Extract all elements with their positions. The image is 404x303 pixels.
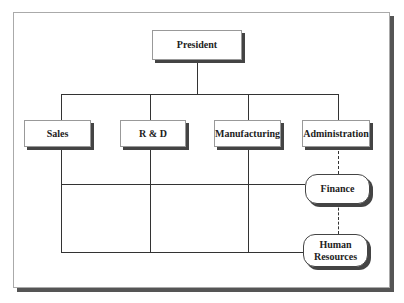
president-label: President bbox=[177, 39, 217, 51]
connector-hr-horizontal bbox=[61, 252, 303, 253]
dashed-admin-to-finance bbox=[338, 146, 339, 174]
box-president: President bbox=[152, 30, 242, 60]
box-finance: Finance bbox=[305, 174, 370, 204]
connector-finance-horizontal bbox=[61, 184, 305, 185]
connector-president-down bbox=[197, 59, 198, 94]
connector-administration-up bbox=[338, 94, 339, 120]
box-administration: Administration bbox=[302, 120, 370, 147]
box-rd: R & D bbox=[120, 120, 186, 147]
human-resources-label: Human Resources bbox=[311, 239, 361, 263]
connector-manufacturing-up bbox=[248, 94, 249, 120]
connector-manufacturing-down bbox=[248, 146, 249, 253]
connector-sales-up bbox=[61, 94, 62, 120]
box-manufacturing: Manufacturing bbox=[214, 120, 281, 147]
manufacturing-label: Manufacturing bbox=[215, 128, 280, 140]
administration-label: Administration bbox=[303, 128, 369, 140]
sales-label: Sales bbox=[47, 128, 69, 140]
connector-rd-down bbox=[150, 146, 151, 253]
dashed-finance-to-hr bbox=[338, 203, 339, 234]
connector-sales-down bbox=[61, 146, 62, 253]
box-human-resources: Human Resources bbox=[303, 234, 368, 267]
connector-rd-up bbox=[150, 94, 151, 120]
connector-departments-horizontal bbox=[61, 94, 339, 95]
rd-label: R & D bbox=[139, 128, 167, 140]
finance-label: Finance bbox=[321, 183, 355, 195]
box-sales: Sales bbox=[24, 120, 91, 147]
